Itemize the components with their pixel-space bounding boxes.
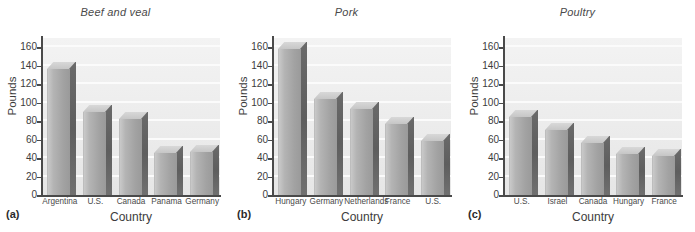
y-axis-tick — [499, 66, 504, 68]
bar-front-face — [278, 49, 301, 195]
bar-front-face — [652, 156, 675, 195]
x-axis-tick-label: Canada — [575, 197, 611, 206]
bar-front-face — [509, 117, 532, 196]
y-axis-tick — [268, 158, 273, 160]
bar-front-face — [545, 130, 568, 195]
y-axis-tick-label: 40 — [3, 152, 37, 163]
y-axis-tick — [37, 84, 42, 86]
chart-panel-c: Poultry Pounds 020406080100120140160 U.S… — [462, 0, 693, 232]
bar-side-face — [674, 149, 681, 195]
y-axis-tick-label: 20 — [234, 171, 268, 182]
bar — [652, 149, 681, 195]
bar — [616, 147, 645, 195]
bar-front-face — [314, 99, 337, 195]
gridline — [504, 45, 682, 47]
y-axis-tick-label: 140 — [234, 60, 268, 71]
bar — [385, 117, 414, 195]
gridline — [504, 82, 682, 84]
x-axis-tick-labels-a: ArgentinaU.S.CanadaPanamaGermany — [42, 197, 220, 211]
bar-side-face — [443, 134, 450, 195]
y-axis-tick-label: 160 — [465, 41, 499, 52]
y-axis-line-c — [503, 36, 505, 197]
bar — [314, 92, 343, 195]
y-axis-tick — [37, 47, 42, 49]
y-axis-tick-label: 120 — [465, 78, 499, 89]
bar-front-face — [190, 152, 213, 195]
y-axis-tick-label: 80 — [234, 115, 268, 126]
bar — [545, 123, 574, 195]
chart-title-a: Beef and veal — [0, 6, 231, 18]
bar — [83, 105, 112, 195]
plot-area-c — [504, 38, 682, 195]
bar-side-face — [336, 92, 343, 195]
x-axis-tick-label: France — [380, 197, 416, 206]
y-axis-tick-label: 40 — [465, 152, 499, 163]
bar-front-face — [350, 109, 373, 195]
three-panel-bar-chart-figure: Beef and veal Pounds 0204060801001201401… — [0, 0, 695, 232]
bar-side-face — [372, 102, 379, 195]
y-axis-tick-label: 80 — [3, 115, 37, 126]
x-axis-tick-label: Netherlands — [344, 197, 380, 206]
y-axis-tick-label: 0 — [3, 189, 37, 200]
bar — [190, 145, 219, 195]
bar-front-face — [83, 112, 106, 195]
y-axis-tick — [37, 140, 42, 142]
bar-side-face — [212, 145, 219, 195]
chart-title-b: Pork — [231, 6, 462, 18]
x-axis-tick-label: Panama — [149, 197, 185, 206]
y-axis-tick — [499, 47, 504, 49]
y-axis-tick-label: 140 — [3, 60, 37, 71]
gridline — [42, 45, 220, 47]
y-axis-tick — [499, 103, 504, 105]
bar-side-face — [69, 62, 76, 195]
y-axis-tick-label: 60 — [465, 134, 499, 145]
bar-side-face — [567, 123, 574, 195]
x-axis-tick-label: Germany — [309, 197, 345, 206]
bar-front-face — [616, 154, 639, 195]
y-axis-tick-label: 100 — [234, 97, 268, 108]
y-axis-tick-label: 140 — [465, 60, 499, 71]
x-axis-label-a: Country — [42, 210, 220, 224]
y-axis-tick-label: 160 — [234, 41, 268, 52]
bar — [509, 110, 538, 196]
bar-front-face — [421, 141, 444, 195]
y-axis-tick-label: 120 — [234, 78, 268, 89]
panel-letter-b: (b) — [237, 208, 251, 220]
y-axis-tick — [499, 177, 504, 179]
y-axis-tick — [268, 140, 273, 142]
y-axis-tick — [499, 84, 504, 86]
y-axis-tick — [268, 103, 273, 105]
y-axis-tick-label: 20 — [465, 171, 499, 182]
y-axis-tick — [37, 177, 42, 179]
x-axis-tick-label: Argentina — [42, 197, 78, 206]
y-axis-tick-label: 20 — [3, 171, 37, 182]
y-axis-tick — [37, 158, 42, 160]
x-axis-tick-labels-b: HungaryGermanyNetherlandsFranceU.S. — [273, 197, 451, 211]
chart-panel-a: Beef and veal Pounds 0204060801001201401… — [0, 0, 231, 232]
panel-letter-a: (a) — [6, 208, 19, 220]
y-axis-tick-label: 100 — [465, 97, 499, 108]
plot-area-a — [42, 38, 220, 195]
y-axis-tick-label: 60 — [3, 134, 37, 145]
chart-title-c: Poultry — [462, 6, 693, 18]
y-axis-tick-label: 0 — [465, 189, 499, 200]
bar-front-face — [119, 119, 142, 195]
bar — [154, 146, 183, 195]
y-axis-line-a — [41, 36, 43, 197]
bar — [350, 102, 379, 195]
y-axis-tick — [499, 121, 504, 123]
gridline — [504, 101, 682, 103]
plot-area-b — [273, 38, 451, 195]
y-axis-tick — [268, 121, 273, 123]
bar-front-face — [47, 69, 70, 195]
y-axis-tick-label: 160 — [3, 41, 37, 52]
y-axis-tick-label: 80 — [465, 115, 499, 126]
x-axis-tick-label: Israel — [540, 197, 576, 206]
y-axis-tick — [268, 177, 273, 179]
y-axis-tick — [268, 47, 273, 49]
bar-side-face — [638, 147, 645, 195]
bar-side-face — [141, 112, 148, 195]
y-axis-tick — [268, 66, 273, 68]
y-axis-tick — [268, 84, 273, 86]
x-axis-tick-label: Canada — [113, 197, 149, 206]
